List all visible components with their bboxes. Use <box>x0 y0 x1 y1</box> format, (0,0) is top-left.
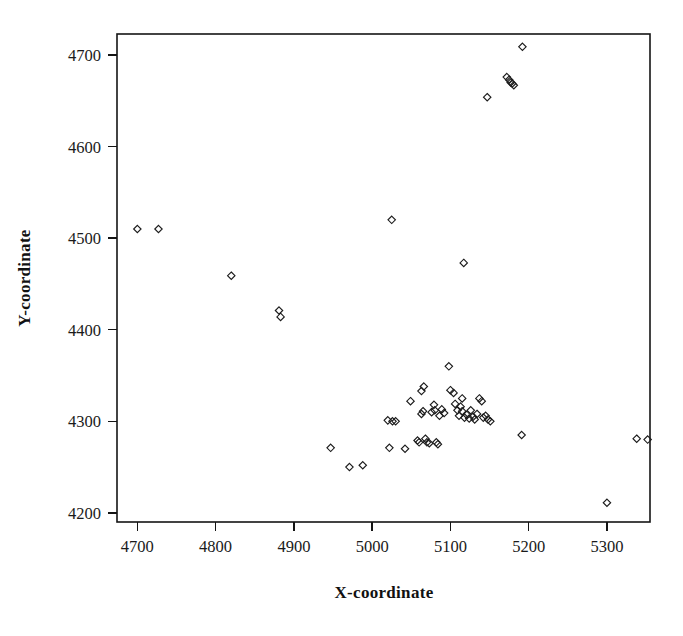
y-tick-label: 4700 <box>68 46 101 65</box>
x-tick-label: 5300 <box>590 537 623 556</box>
y-tick-label: 4200 <box>68 504 101 523</box>
y-tick-label: 4600 <box>68 138 101 157</box>
y-tick-label: 4300 <box>68 412 101 431</box>
scatter-plot-figure: 4700480049005000510052005300 42004300440… <box>0 0 683 636</box>
plot-frame <box>117 34 650 522</box>
x-tick-label: 4800 <box>199 537 232 556</box>
x-tick-label: 5000 <box>356 537 389 556</box>
x-tick-label: 4900 <box>277 537 310 556</box>
y-tick-label: 4500 <box>68 229 101 248</box>
plot-canvas: 4700480049005000510052005300 42004300440… <box>0 0 683 636</box>
x-tick-label: 5100 <box>434 537 467 556</box>
x-axis-title: X-coordinate <box>335 583 434 602</box>
y-axis-title: Y-coordinate <box>15 229 34 327</box>
x-tick-label: 5200 <box>512 537 545 556</box>
x-tick-label: 4700 <box>121 537 154 556</box>
y-tick-label: 4400 <box>68 321 101 340</box>
